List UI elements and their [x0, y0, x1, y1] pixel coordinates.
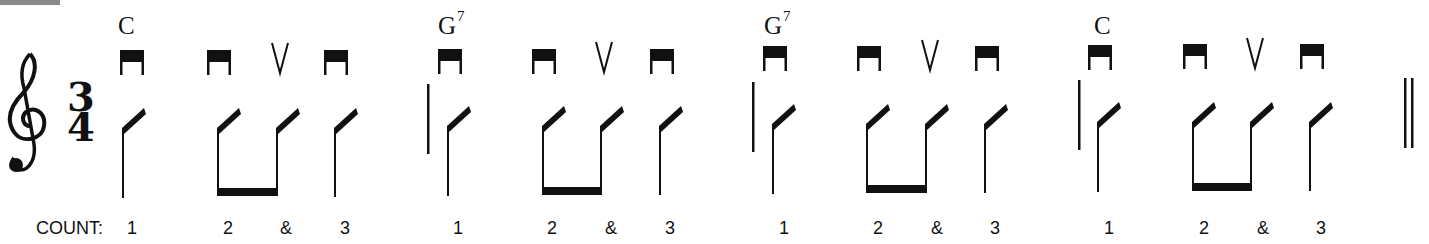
count-m2-and: & — [605, 218, 617, 239]
slash-notehead-icon — [925, 104, 949, 130]
slash-notehead-icon — [447, 106, 471, 132]
slash-notehead-icon — [772, 104, 796, 130]
barline — [1078, 80, 1081, 150]
down-bow-icon — [438, 49, 462, 74]
down-bow-icon — [650, 49, 674, 74]
count-m4-b1: 1 — [1104, 218, 1114, 239]
down-bow-icon — [532, 49, 556, 74]
slash-notehead-icon — [276, 108, 300, 134]
measure-2 — [438, 42, 683, 196]
count-m3-and: & — [931, 218, 943, 239]
slash-notehead-icon — [1309, 102, 1333, 128]
count-m2-b2: 2 — [547, 218, 557, 239]
count-m2-b3: 3 — [665, 218, 675, 239]
slash-notehead-icon — [542, 106, 566, 132]
slash-notehead-icon — [334, 108, 358, 134]
slash-notehead-icon — [600, 106, 624, 132]
slash-notehead-icon — [1097, 102, 1121, 128]
count-m4-b3: 3 — [1316, 218, 1326, 239]
count-m1-b1: 1 — [127, 218, 137, 239]
slash-notehead-icon — [1250, 102, 1274, 128]
beam — [217, 188, 278, 196]
slash-notehead-icon — [122, 108, 146, 134]
slash-notehead-icon — [217, 108, 241, 134]
slash-notehead-icon — [984, 104, 1008, 130]
count-m3-b1: 1 — [779, 218, 789, 239]
slash-notehead-icon — [659, 106, 683, 132]
beam — [542, 187, 602, 195]
count-m2-b1: 1 — [453, 218, 463, 239]
down-bow-icon — [207, 50, 231, 75]
double-barline — [1404, 78, 1414, 148]
down-bow-icon — [120, 50, 144, 75]
rhythm-notation — [0, 0, 1429, 244]
count-m1-b3: 3 — [340, 218, 350, 239]
up-bow-icon — [596, 42, 612, 72]
barline — [752, 82, 755, 152]
down-bow-icon — [1183, 44, 1207, 69]
slash-notehead-icon — [866, 104, 890, 130]
measure-3 — [763, 40, 1008, 194]
up-bow-icon — [922, 40, 938, 70]
down-bow-icon — [1300, 44, 1324, 69]
slash-notehead-icon — [1192, 102, 1216, 128]
beam — [1192, 183, 1252, 191]
beam — [866, 185, 927, 193]
down-bow-icon — [763, 46, 787, 71]
barline — [427, 84, 430, 154]
count-label: COUNT: — [36, 218, 103, 239]
count-m3-b3: 3 — [990, 218, 1000, 239]
down-bow-icon — [324, 50, 348, 75]
down-bow-icon — [857, 46, 881, 71]
down-bow-icon — [1088, 45, 1112, 70]
up-bow-icon — [1247, 38, 1263, 68]
up-bow-icon — [272, 43, 288, 73]
count-m4-b2: 2 — [1199, 218, 1209, 239]
count-m1-and: & — [280, 218, 292, 239]
count-m4-and: & — [1257, 218, 1269, 239]
measure-4 — [1088, 38, 1333, 192]
count-m1-b2: 2 — [223, 218, 233, 239]
measure-1 — [120, 43, 358, 198]
down-bow-icon — [975, 46, 999, 71]
count-m3-b2: 2 — [873, 218, 883, 239]
